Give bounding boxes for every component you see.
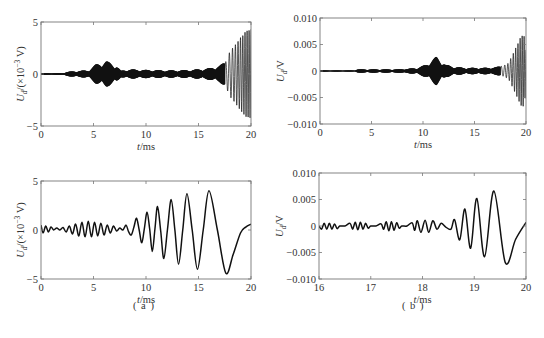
x-axis-label: t/ms (137, 141, 155, 152)
y-tick-label: 0 (33, 69, 38, 80)
x-tick-label: 20 (246, 282, 257, 293)
y-axis-label: Ud/V (274, 215, 288, 237)
x-tick-label: 20 (521, 282, 532, 293)
x-tick-label: 0 (38, 129, 43, 140)
x-tick-label: 18 (417, 282, 428, 293)
x-tick-label: 20 (246, 129, 257, 140)
x-tick-label: 20 (521, 127, 532, 138)
y-tick-label: 0 (311, 221, 316, 232)
waveform-trace (320, 36, 526, 106)
x-tick-label: 10 (141, 129, 152, 140)
waveform-trace (41, 191, 251, 274)
x-tick-label: 15 (469, 127, 480, 138)
panel-label-a: ( a ) (133, 300, 155, 311)
y-tick-label: −0.005 (287, 92, 317, 103)
figure-canvas: 05101520−505t/msUd/(×10−3 V) 05101520−0.… (0, 0, 544, 338)
x-tick-label: 0 (38, 282, 43, 293)
x-tick-label: 5 (369, 127, 374, 138)
y-tick-label: 0.005 (292, 194, 316, 205)
y-tick-label: 5 (33, 176, 38, 187)
y-axis-label: Ud/(×10−3 V) (13, 46, 29, 102)
y-tick-label: −0.010 (286, 274, 316, 285)
plot-a-top: 05101520−505t/msUd/(×10−3 V) (13, 17, 256, 153)
x-tick-label: 15 (193, 282, 204, 293)
y-axis-label: Ud/V (275, 60, 289, 82)
x-tick-label: 15 (193, 129, 204, 140)
waveform-trace (319, 191, 526, 264)
plot-a-bottom: 05101520−505t/msUd/(×10−3 V) (13, 176, 256, 306)
y-tick-label: −5 (27, 121, 38, 132)
x-tick-label: 17 (366, 282, 377, 293)
x-axis-label: t/ms (414, 139, 432, 150)
x-tick-label: 5 (91, 282, 96, 293)
y-tick-label: 0 (33, 225, 38, 236)
y-tick-label: 5 (33, 17, 38, 28)
x-tick-label: 5 (91, 129, 96, 140)
y-tick-label: −5 (27, 274, 38, 285)
y-axis-label: Ud/(×10−3 V) (13, 202, 29, 258)
plot-frame (41, 181, 251, 279)
y-tick-label: −0.010 (287, 119, 317, 130)
y-tick-label: −0.005 (286, 247, 316, 258)
x-tick-label: 19 (469, 282, 480, 293)
y-tick-label: 0.010 (293, 13, 317, 24)
x-tick-label: 10 (141, 282, 152, 293)
plot-b-bottom: 1617181920−0.010−0.00500.0050.010t/msUd/… (274, 168, 531, 306)
panel-label-b: ( b ) (402, 300, 425, 311)
y-tick-label: 0.005 (293, 39, 317, 50)
x-tick-label: 0 (317, 127, 322, 138)
y-tick-label: 0 (312, 66, 317, 77)
waveform-trace (41, 29, 251, 118)
y-tick-label: 0.010 (292, 168, 316, 179)
plot-b-top: 05101520−0.010−0.00500.0050.010t/msUd/V (275, 13, 531, 151)
x-tick-label: 10 (418, 127, 429, 138)
